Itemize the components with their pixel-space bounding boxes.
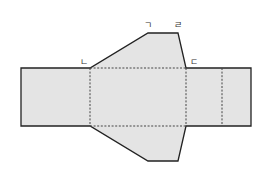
label-top-right: ㄹ (174, 20, 182, 30)
label-top-left: ㄱ (144, 20, 152, 30)
prism-net-diagram: ㄱ ㄹ ㄴ ㄷ (0, 0, 263, 175)
label-mid-right: ㄷ (190, 57, 198, 67)
label-mid-left: ㄴ (80, 57, 88, 67)
net-outline (21, 33, 251, 161)
